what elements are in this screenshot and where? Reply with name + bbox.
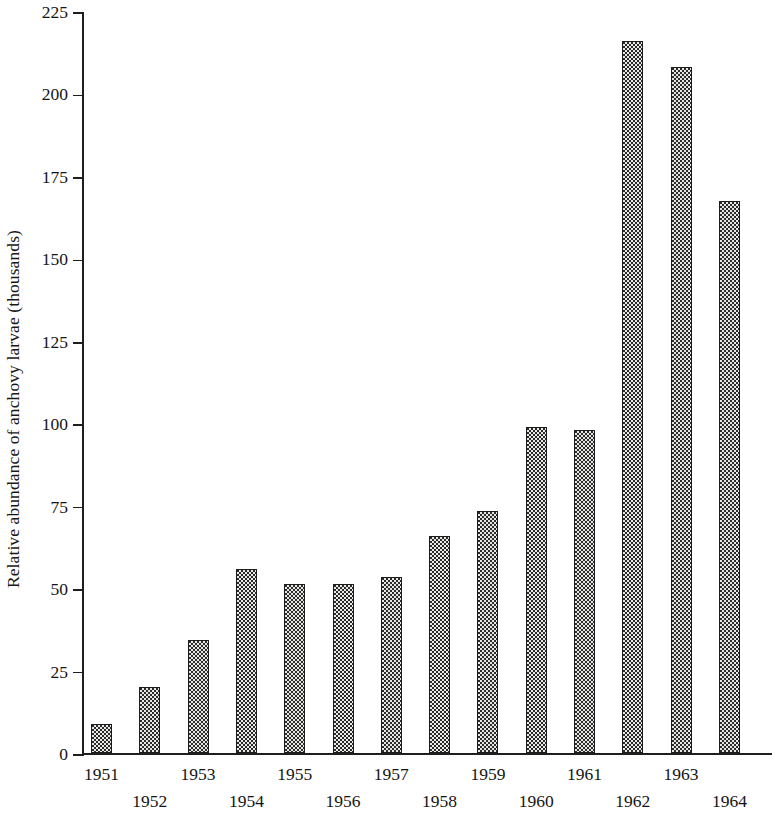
- x-tick-label-1957: 1957: [374, 766, 409, 784]
- y-tick-mark: [73, 424, 84, 426]
- x-tick-label-1955: 1955: [277, 766, 312, 784]
- bar-1957: [381, 577, 402, 753]
- y-tick-label: 225: [12, 4, 68, 22]
- y-tick-label: 175: [12, 169, 68, 187]
- x-tick-label-1962: 1962: [615, 793, 650, 811]
- x-tick-label-1961: 1961: [567, 766, 602, 784]
- bar-1958: [429, 536, 450, 754]
- bar-1956: [333, 584, 354, 754]
- bar-1963: [671, 67, 692, 753]
- x-tick-label-1954: 1954: [229, 793, 264, 811]
- bar-1955: [284, 584, 305, 754]
- bar-1952: [139, 687, 160, 753]
- x-tick-label-1964: 1964: [712, 793, 747, 811]
- y-tick-label: 150: [12, 252, 68, 270]
- bar-1960: [526, 427, 547, 753]
- x-tick-label-1959: 1959: [470, 766, 505, 784]
- bar-1961: [574, 430, 595, 753]
- bar-1953: [188, 640, 209, 754]
- y-tick-label: 50: [12, 581, 68, 599]
- x-axis-line: [82, 753, 772, 755]
- anchovy-larvae-bar-chart: Relative abundance of anchovy larvae (th…: [0, 0, 780, 818]
- x-tick-label-1951: 1951: [84, 766, 119, 784]
- bar-1964: [719, 201, 740, 753]
- y-tick-mark: [73, 177, 84, 179]
- y-tick-label: 75: [12, 499, 68, 517]
- y-tick-label: 0: [12, 746, 68, 764]
- x-tick-label-1958: 1958: [422, 793, 457, 811]
- x-tick-label-1963: 1963: [664, 766, 699, 784]
- y-axis-line: [82, 13, 84, 755]
- y-tick-mark: [73, 589, 84, 591]
- y-tick-mark: [73, 12, 84, 14]
- bar-1954: [236, 569, 257, 754]
- y-tick-mark: [73, 342, 84, 344]
- y-axis-title: Relative abundance of anchovy larvae (th…: [0, 0, 26, 818]
- y-tick-mark: [73, 95, 84, 97]
- x-tick-label-1960: 1960: [519, 793, 554, 811]
- bar-1962: [622, 41, 643, 753]
- y-tick-mark: [73, 260, 84, 262]
- plot-area: 0255075100125150175200225: [82, 13, 772, 755]
- bar-1959: [477, 511, 498, 753]
- x-tick-label-1953: 1953: [181, 766, 216, 784]
- y-tick-label: 200: [12, 87, 68, 105]
- bar-1951: [91, 724, 112, 754]
- y-tick-label: 125: [12, 334, 68, 352]
- x-tick-label-1956: 1956: [326, 793, 361, 811]
- x-tick-label-1952: 1952: [132, 793, 167, 811]
- y-tick-mark: [73, 754, 84, 756]
- y-tick-label: 100: [12, 416, 68, 434]
- y-tick-mark: [73, 672, 84, 674]
- y-tick-mark: [73, 507, 84, 509]
- y-tick-label: 25: [12, 664, 68, 682]
